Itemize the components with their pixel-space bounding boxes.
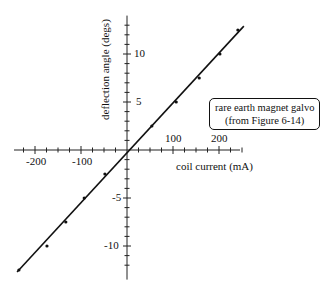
data-point (198, 76, 201, 79)
plot-area (0, 0, 327, 292)
annotation-line-2: (from Figure 6-14) (215, 114, 314, 127)
fit-line (17, 26, 244, 272)
y-tick-label: -10 (104, 240, 119, 251)
x-tick-label: 100 (165, 133, 182, 144)
y-tick-label: 10 (134, 48, 145, 59)
x-axis-label: coil current (mA) (176, 160, 253, 172)
x-tick-label: 200 (211, 133, 228, 144)
data-point (17, 268, 20, 271)
annotation-line-1: rare earth magnet galvo (215, 101, 314, 114)
data-point (218, 52, 221, 55)
annotation-box: rare earth magnet galvo (from Figure 6-1… (209, 98, 320, 130)
data-point (150, 124, 153, 127)
x-tick-label: -200 (26, 156, 46, 167)
y-axis-label: deflection angle (degs) (99, 19, 111, 120)
data-point (236, 28, 239, 31)
data-point (83, 196, 86, 199)
data-point (103, 172, 106, 175)
y-tick-label: 5 (136, 96, 142, 107)
data-point (64, 220, 67, 223)
y-tick-label: -5 (112, 192, 121, 203)
data-point (45, 244, 48, 247)
x-tick-label: -100 (72, 156, 92, 167)
data-point (175, 100, 178, 103)
